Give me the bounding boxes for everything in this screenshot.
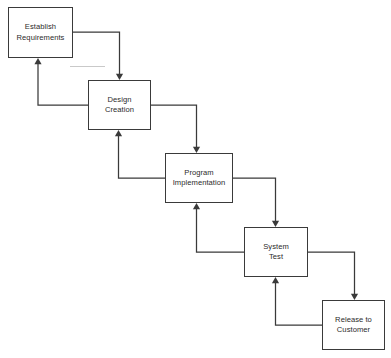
waterfall-diagram: Establish RequirementsDesign CreationPro… xyxy=(0,0,391,358)
connector-forward-design-to-program xyxy=(151,105,197,147)
node-label-program-implementation: Program Implementation xyxy=(173,168,226,189)
node-design-creation[interactable]: Design Creation xyxy=(88,80,151,130)
node-system-test[interactable]: System Test xyxy=(244,227,308,277)
arrowhead-backward-system-test-to-program xyxy=(193,203,200,209)
connector-forward-program-to-system-test xyxy=(233,178,276,221)
node-label-design-creation: Design Creation xyxy=(105,95,134,116)
node-establish-requirements[interactable]: Establish Requirements xyxy=(8,7,73,58)
connector-forward-system-test-to-release xyxy=(308,252,355,294)
connector-forward-requirements-to-design xyxy=(73,32,120,74)
node-label-establish-requirements: Establish Requirements xyxy=(17,22,65,43)
connector-backward-design-to-requirements xyxy=(38,64,88,105)
arrowhead-backward-program-to-design xyxy=(115,130,122,136)
connector-backward-program-to-design xyxy=(119,136,166,178)
connector-backward-release-to-system-test xyxy=(276,283,323,325)
node-label-release-to-customer: Release to Customer xyxy=(335,315,372,336)
arrowhead-backward-design-to-requirements xyxy=(34,58,41,64)
connector-backward-system-test-to-program xyxy=(197,209,245,252)
node-release-to-customer[interactable]: Release to Customer xyxy=(322,300,385,350)
node-program-implementation[interactable]: Program Implementation xyxy=(165,153,233,203)
arrowhead-backward-release-to-system-test xyxy=(272,277,279,283)
node-label-system-test: System Test xyxy=(263,242,289,263)
